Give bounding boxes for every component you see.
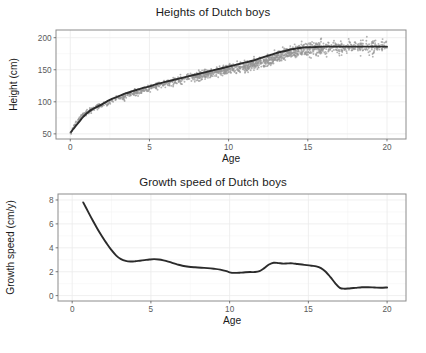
data-point [209,72,211,74]
data-point [299,53,301,55]
data-point [320,38,322,40]
data-point [341,54,343,56]
data-point [309,49,311,51]
data-point [301,52,303,54]
data-point [367,49,369,51]
data-point [162,84,164,86]
data-point [378,43,380,45]
y-tick-label: 2 [49,268,54,277]
data-point [354,41,356,43]
data-point [244,60,246,62]
data-point [80,116,82,118]
data-point [271,63,273,65]
data-point [301,41,303,43]
data-point [253,69,255,71]
y-tick-label: 0 [49,292,54,301]
data-point [315,43,317,45]
data-point [365,40,367,42]
data-point [331,50,333,52]
data-point [257,66,259,68]
data-point [208,75,210,77]
data-point [186,74,188,76]
data-point [128,95,130,97]
data-point [382,41,384,43]
data-point [245,67,247,69]
data-point [141,91,143,93]
y-axis-title: Height (cm) [8,58,19,111]
data-point [253,56,255,58]
data-point [155,87,157,89]
data-point [279,57,281,59]
data-point [351,49,353,51]
data-point [280,54,282,56]
data-point [374,48,376,50]
data-point [250,67,252,69]
data-point [198,69,200,71]
data-point [194,79,196,81]
data-point [326,56,328,58]
data-point [263,61,265,63]
data-point [385,41,387,43]
x-axis-title: Age [223,315,241,326]
data-point [282,55,284,57]
data-point [291,52,293,54]
data-point [252,65,254,67]
data-point [328,42,330,44]
x-axis-title: Age [222,153,240,164]
data-point [255,61,257,63]
data-point [119,98,121,100]
data-point [137,95,139,97]
data-point [172,77,174,79]
data-point [336,51,338,53]
data-point [338,53,340,55]
data-point [196,79,198,81]
y-axis-title: Growth speed (cm/y) [5,200,16,295]
data-point [277,58,279,60]
data-point [188,78,190,80]
data-point [348,40,350,42]
data-point [239,66,241,68]
data-point [210,75,212,77]
data-point [313,53,315,55]
data-point [273,57,275,59]
data-point [190,80,192,82]
data-point [340,40,342,42]
data-point [230,70,232,72]
data-point [215,74,217,76]
data-point [172,84,174,86]
data-point [86,109,88,111]
data-point [362,50,364,52]
data-point [343,48,345,50]
data-point [336,44,338,46]
data-point [341,43,343,45]
data-point [228,68,230,70]
growth-speed-line-plot: 0510152002468AgeGrowth speed (cm/y) [0,172,426,353]
data-point [252,67,254,69]
data-point [328,48,330,50]
data-point [306,43,308,45]
data-point [203,69,205,71]
data-point [300,49,302,51]
data-point [309,52,311,54]
data-point [128,93,130,95]
data-point [245,64,247,66]
x-tick-label: 20 [383,305,393,314]
data-point [133,94,135,96]
data-point [231,67,233,69]
data-point [286,54,288,56]
data-point [250,62,252,64]
data-point [381,48,383,50]
panel-growth-speed: Growth speed of Dutch boys 0510152002468… [0,172,426,353]
data-point [235,72,237,74]
data-point [307,54,309,56]
y-tick-label: 4 [49,244,54,253]
data-point [297,53,299,55]
data-point [123,98,125,100]
data-point [311,41,313,43]
data-point [265,65,267,67]
data-point [372,52,374,54]
x-tick-label: 15 [303,143,313,152]
data-point [204,76,206,78]
data-point [144,89,146,91]
data-point [223,71,225,73]
